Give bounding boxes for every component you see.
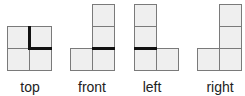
left-cell [134, 26, 157, 49]
front-cell [70, 48, 93, 71]
top-view-label: top [20, 79, 39, 95]
top-cell [29, 26, 52, 49]
top-cell [29, 48, 52, 71]
right-cell [219, 26, 242, 49]
front-cell [92, 48, 115, 71]
front-cell [92, 4, 115, 27]
top-thick-horizontal-edge [28, 47, 52, 50]
right-cell [197, 48, 220, 71]
left-cell [134, 48, 157, 71]
top-cell [7, 26, 30, 49]
right-cell [219, 48, 242, 71]
left-view-label: left [143, 79, 162, 95]
left-cell [156, 48, 179, 71]
top-cell [7, 48, 30, 71]
right-cell [219, 4, 242, 27]
left-thick-horizontal-edge [134, 47, 157, 50]
front-thick-horizontal-edge [92, 47, 115, 50]
front-view-label: front [78, 79, 106, 95]
left-cell [134, 4, 157, 27]
right-view-label: right [206, 79, 233, 95]
front-cell [92, 26, 115, 49]
